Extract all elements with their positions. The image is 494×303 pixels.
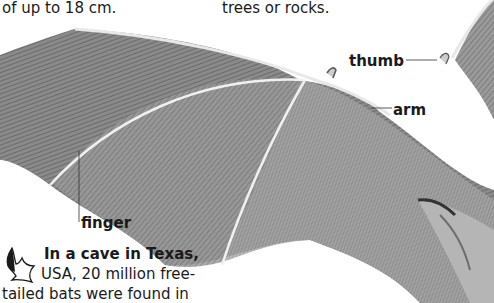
fact-line-2: USA, 20 million free- [41, 264, 195, 284]
bat-icon [2, 246, 36, 284]
label-arm: arm [393, 101, 426, 119]
label-thumb: thumb [349, 52, 404, 70]
label-finger: finger [81, 214, 131, 232]
fact-heading: In a cave in Texas, [44, 244, 199, 264]
fact-line-3: tailed bats were found in [2, 284, 189, 303]
thumb-claw [327, 68, 336, 78]
book-page: of up to 18 cm. trees or rocks. [0, 0, 494, 303]
far-wing [455, 0, 494, 120]
